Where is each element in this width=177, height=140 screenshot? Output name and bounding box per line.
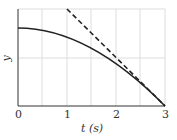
y-axis-label: y [0,55,13,61]
x-tick-2: 2 [113,108,120,121]
x-axis-label: t (s) [81,122,103,135]
x-tick-1: 1 [64,108,71,121]
plot-area [0,0,177,140]
x-tick-3: 3 [162,108,169,121]
x-tick-0: 0 [15,108,22,121]
